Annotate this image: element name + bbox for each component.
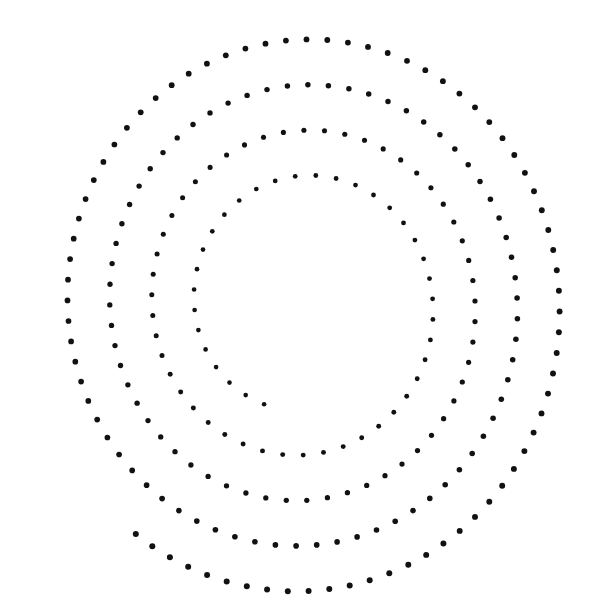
spiral-dot: [353, 183, 358, 188]
spiral-dot: [113, 241, 118, 246]
spiral-dot: [190, 122, 195, 127]
spiral-dot: [539, 410, 545, 416]
spiral-dot: [145, 418, 150, 423]
spiral-dot: [214, 365, 219, 370]
spiral-dot: [155, 251, 160, 256]
spiral-dot: [457, 467, 463, 473]
spiral-dot: [385, 99, 390, 104]
spiral-dot: [367, 577, 373, 583]
spiral-dot: [107, 282, 112, 287]
spiral-dot: [398, 157, 403, 162]
spiral-dot: [437, 132, 442, 137]
spiral-dot: [112, 142, 118, 148]
spiral-dot: [94, 417, 100, 423]
spiral-dot: [208, 165, 213, 170]
spiral-dot: [193, 179, 198, 184]
spiral-dot: [325, 495, 330, 500]
spiral-dot: [241, 442, 246, 447]
spiral-dot: [68, 339, 74, 345]
spiral-dot: [204, 61, 210, 67]
spiral-dot: [404, 394, 409, 399]
spiral-dot: [227, 380, 232, 385]
spiral-dot: [306, 588, 312, 594]
spiral-dot: [456, 91, 462, 97]
spiral-dot: [470, 340, 475, 345]
spiral-dot: [371, 193, 376, 198]
spiral-dot: [509, 255, 515, 261]
spiral-dot: [195, 267, 200, 272]
spiral-dot: [206, 420, 211, 425]
spiral-dot: [387, 205, 392, 210]
spiral-dot: [366, 91, 371, 96]
spiral-dot: [324, 37, 330, 43]
spiral-dot: [244, 583, 250, 589]
spiral-dot: [428, 337, 433, 342]
spiral-dot: [362, 138, 367, 143]
spiral-dot: [159, 496, 165, 502]
spiral-dot: [342, 132, 347, 137]
spiral-dot: [488, 197, 494, 203]
spiral-dot: [138, 109, 144, 115]
spiral-dot: [391, 410, 396, 415]
spiral-dot: [545, 391, 551, 397]
spiral-dot: [185, 564, 191, 570]
spiral-dot: [421, 119, 426, 124]
spiral-dot: [392, 518, 398, 524]
spiral-dot: [427, 496, 433, 502]
spiral-dot: [232, 534, 238, 540]
spiral-dot: [510, 357, 516, 363]
spiral-dot: [365, 44, 371, 50]
spiral-dot: [76, 216, 82, 222]
spiral-dot: [374, 527, 380, 533]
spiral-dot: [192, 308, 197, 313]
spiral-dot: [78, 379, 84, 385]
spiral-dot: [210, 229, 215, 234]
spiral-dot: [428, 185, 433, 190]
spiral-dot: [427, 276, 432, 281]
spiral-dot: [301, 128, 306, 133]
spiral-dot: [457, 528, 463, 534]
spiral-dot: [224, 483, 229, 488]
spiral-dot: [85, 398, 91, 404]
spiral-dot: [496, 215, 502, 221]
spiral-dot: [285, 83, 290, 88]
spiral-dot: [222, 212, 227, 217]
spiral-dot: [345, 490, 350, 495]
spiral-dot: [472, 298, 477, 303]
spiral-dot: [160, 150, 165, 155]
spiral-dot: [499, 483, 505, 489]
spiral-dot: [116, 452, 122, 458]
spiral-dot: [314, 542, 320, 548]
spiral-dot: [466, 258, 471, 263]
spiral-dot: [194, 518, 200, 524]
spiral-dot: [469, 451, 475, 457]
spiral-dot: [500, 135, 506, 141]
spiral-dot: [151, 272, 156, 277]
spiral-dot: [322, 128, 327, 133]
spiral-dot: [252, 539, 258, 545]
spiral-dot: [91, 177, 97, 183]
spiral-dot: [129, 468, 135, 474]
spiral-dot: [207, 110, 212, 115]
spiral-dot: [466, 360, 471, 365]
spiral-dot: [313, 173, 318, 178]
spiral-dot: [451, 398, 456, 403]
spiral-dot: [178, 390, 183, 395]
spiral-dot: [107, 302, 112, 307]
spiral-dot: [531, 188, 537, 194]
spiral-dot: [133, 531, 139, 537]
spiral-dot: [127, 202, 132, 207]
spiral-dot: [515, 316, 521, 322]
spiral-dot: [405, 562, 411, 568]
spiral-dot: [118, 363, 123, 368]
spiral-dot: [149, 543, 155, 549]
spiral-dot: [243, 490, 248, 495]
spiral-dot: [430, 296, 435, 301]
spiral-dot: [169, 213, 174, 218]
spiral-dot: [222, 432, 227, 437]
spiral-dot: [167, 554, 173, 560]
spiral-dot: [326, 586, 332, 592]
spiral-dot: [472, 104, 478, 110]
spiral-dot: [304, 37, 310, 43]
spiral-dot: [347, 583, 353, 589]
